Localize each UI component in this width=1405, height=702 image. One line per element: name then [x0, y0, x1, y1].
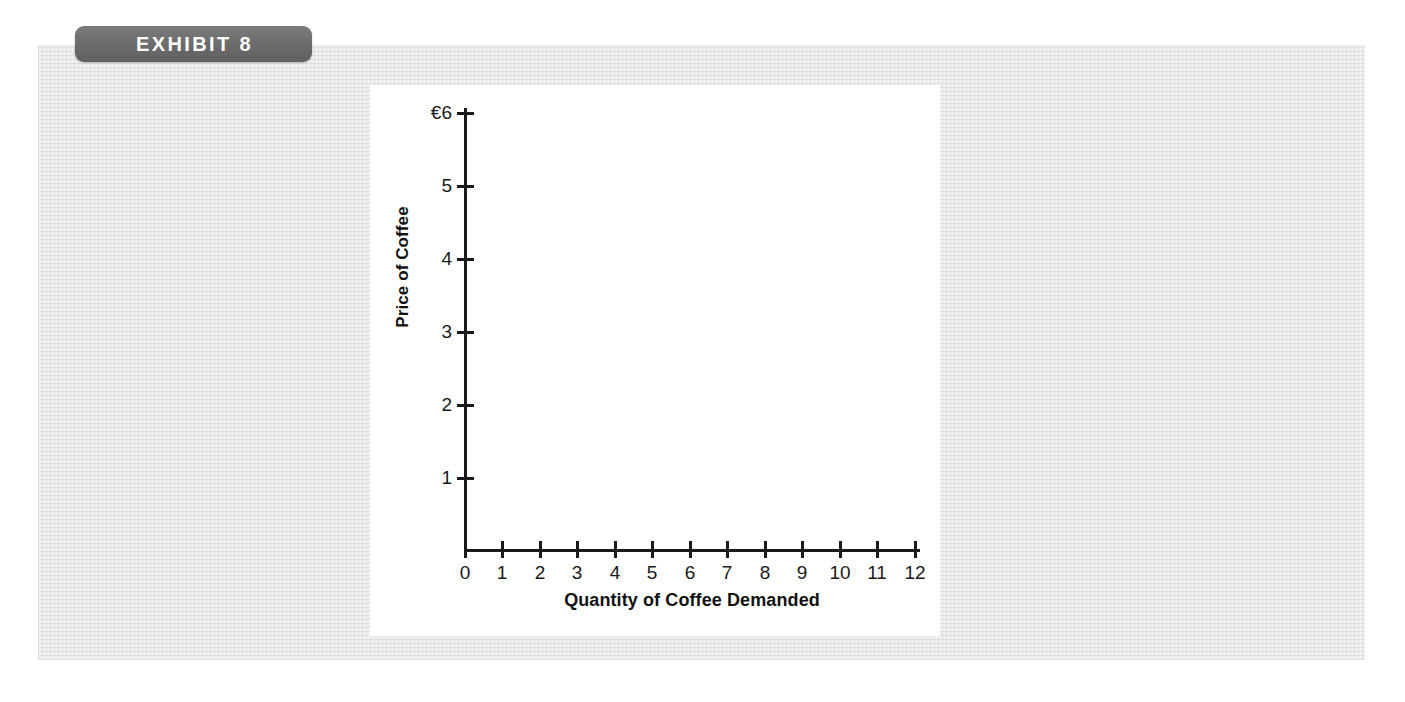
- x-axis-tick-label: 1: [485, 563, 519, 582]
- x-axis-tick-label: 7: [710, 563, 744, 582]
- y-axis-tick: [457, 112, 474, 115]
- x-axis-tick: [914, 541, 917, 558]
- x-axis-tick: [876, 541, 879, 558]
- y-axis-tick: [457, 477, 474, 480]
- y-axis-tick-label: 3: [406, 322, 452, 341]
- y-axis-tick-label: 5: [406, 176, 452, 195]
- x-axis-tick: [651, 541, 654, 558]
- x-axis-tick-label: 5: [635, 563, 669, 582]
- y-axis-tick-label-wrap: 1: [396, 468, 452, 488]
- x-axis-tick: [764, 541, 767, 558]
- y-axis-tick-label-wrap: 4: [396, 249, 452, 269]
- x-axis-tick: [689, 541, 692, 558]
- x-axis-title: Quantity of Coffee Demanded: [464, 590, 920, 611]
- x-axis-tick-label: 6: [673, 563, 707, 582]
- exhibit-badge-label: EXHIBIT 8: [134, 34, 253, 54]
- x-axis-tick-label: 11: [860, 563, 894, 582]
- y-axis-tick: [457, 185, 474, 188]
- x-axis-line: [464, 549, 920, 552]
- x-axis-tick: [726, 541, 729, 558]
- y-axis-tick-label: 4: [406, 249, 452, 268]
- x-axis-tick-label: 12: [898, 563, 932, 582]
- y-axis-tick: [457, 258, 474, 261]
- y-axis-tick-label-wrap: 5: [396, 176, 452, 196]
- y-axis-tick-label: 2: [406, 395, 452, 414]
- x-axis-tick: [801, 541, 804, 558]
- x-axis-tick-label: 9: [785, 563, 819, 582]
- x-axis-tick-label: 10: [823, 563, 857, 582]
- x-axis-tick-label: 2: [523, 563, 557, 582]
- x-axis-tick: [839, 541, 842, 558]
- x-axis-tick: [464, 541, 467, 558]
- y-axis-tick-label-wrap: 2: [396, 395, 452, 415]
- x-axis-tick-label: 3: [560, 563, 594, 582]
- x-axis-tick: [539, 541, 542, 558]
- y-axis-tick: [457, 331, 474, 334]
- y-axis-tick-label-wrap: 3: [396, 322, 452, 342]
- x-axis-tick: [501, 541, 504, 558]
- y-axis-tick-label: 1: [406, 468, 452, 487]
- exhibit-badge: EXHIBIT 8: [75, 26, 312, 62]
- x-axis-tick: [576, 541, 579, 558]
- x-axis-tick-label: 8: [748, 563, 782, 582]
- y-axis-line: [464, 108, 467, 552]
- y-axis-tick-label: €6: [406, 103, 452, 122]
- y-axis-tick-label-wrap: €6: [396, 103, 452, 123]
- chart-panel: Price of Coffee €6 5 4 3 2 1 0 1 2 3 4 5…: [370, 85, 940, 636]
- x-axis-tick-label: 4: [598, 563, 632, 582]
- x-axis-tick: [614, 541, 617, 558]
- x-axis-tick-label: 0: [448, 563, 482, 582]
- y-axis-tick: [457, 404, 474, 407]
